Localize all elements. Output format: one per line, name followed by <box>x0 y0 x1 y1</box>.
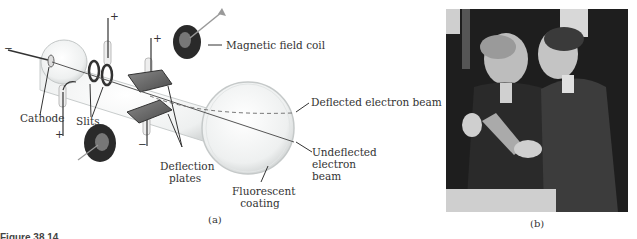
historical-photograph <box>446 9 628 212</box>
fluorescent-coating-label: Fluorescent coating <box>232 185 288 209</box>
photo-illustration <box>446 9 628 212</box>
plate-bottom-polarity: − <box>138 138 147 150</box>
slits-label: Slits <box>76 115 100 127</box>
deflected-beam-label: Deflected electron beam <box>311 96 442 108</box>
undeflected-beam-label: Undeflected electron beam <box>312 146 377 182</box>
cathode-label: Cathode <box>20 112 65 124</box>
cathode <box>48 55 54 67</box>
magnetic-coil-bottom <box>78 124 116 162</box>
magnetic-coil-top <box>173 8 226 59</box>
deflection-plates-label: Deflection plates <box>160 160 210 184</box>
plate-top-polarity: + <box>153 32 162 44</box>
fluorescent-screen-bulb <box>202 82 294 174</box>
magnetic-field-coil-label: Magnetic field coil <box>226 39 325 51</box>
cathode-ray-tube-diagram <box>0 0 440 225</box>
anode-bottom-polarity: + <box>55 128 64 140</box>
panel-a-label: (a) <box>208 214 222 225</box>
figure-caption: Figure 38.14 <box>0 232 58 239</box>
cathode-polarity: − <box>4 42 13 54</box>
anode-top-polarity: + <box>110 10 119 22</box>
panel-b-label: (b) <box>530 218 544 229</box>
